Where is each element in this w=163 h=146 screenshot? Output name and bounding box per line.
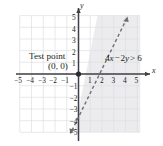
x-tick--4: −4 — [26, 77, 34, 84]
y-tick--4: −4 — [70, 118, 78, 125]
x-tick-5: 5 — [135, 77, 139, 84]
y-tick-3: 3 — [72, 37, 76, 44]
y-tick-5: 5 — [72, 14, 76, 21]
x-tick--3: −3 — [38, 77, 46, 84]
x-tick--1: −1 — [61, 77, 69, 84]
x-axis-label: x — [152, 67, 156, 75]
x-tick-4: 4 — [123, 77, 127, 84]
x-tick--5: −5 — [14, 77, 22, 84]
test-point-marker — [76, 71, 81, 76]
x-tick--2: −2 — [49, 77, 57, 84]
y-tick--5: −5 — [70, 129, 78, 136]
y-tick--1: −1 — [70, 83, 78, 90]
y-axis-label: y — [80, 2, 84, 10]
inequality-graph-figure: −5 −4 −3 −2 −1 1 2 3 4 5 1 2 3 4 5 −1 −2… — [0, 0, 163, 146]
y-tick-2: 2 — [72, 49, 76, 56]
inequality-relation: > 6 — [130, 53, 142, 63]
y-tick--2: −2 — [70, 95, 78, 102]
test-point-label: Test point — [29, 52, 65, 61]
graph-canvas — [0, 0, 163, 146]
y-tick--3: −3 — [70, 106, 78, 113]
x-tick-1: 1 — [88, 77, 92, 84]
test-point-coordinates: (0, 0) — [48, 62, 68, 71]
inequality-label: 4x − 2y > 6 — [105, 54, 142, 63]
y-tick-4: 4 — [72, 26, 76, 33]
x-tick-3: 3 — [112, 77, 116, 84]
x-tick-2: 2 — [100, 77, 104, 84]
y-tick-1: 1 — [72, 60, 76, 67]
